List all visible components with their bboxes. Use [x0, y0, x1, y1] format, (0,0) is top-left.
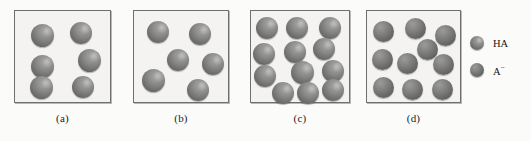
legend-item-a-minus: A−: [470, 63, 505, 77]
sphere-ha: [284, 41, 306, 63]
sphere-ha: [253, 43, 275, 65]
particulate-diagram-figure: (a)(b)(c)(d) HAA−: [0, 0, 531, 141]
sphere-ha: [78, 49, 101, 72]
legend-label-ha-text: HA: [493, 38, 508, 49]
sphere-a-minus: [432, 79, 453, 100]
panel-d: (d): [366, 10, 461, 103]
sphere-ha: [291, 61, 314, 84]
legend-label-a-minus-text: A: [493, 66, 501, 77]
sphere-a-minus: [397, 53, 418, 74]
panel-a-box: [14, 10, 111, 103]
panel-c-caption: (c): [250, 112, 350, 124]
panel-a: (a): [14, 10, 111, 103]
sphere-ha: [286, 17, 308, 39]
panel-b-box: [133, 10, 229, 103]
sphere-ha: [31, 55, 54, 78]
panel-b-caption: (b): [133, 112, 229, 124]
sphere-ha: [189, 23, 211, 45]
sphere-a-minus: [433, 54, 454, 75]
panel-c-box: [250, 10, 350, 103]
sphere-ha: [319, 17, 341, 39]
panel-c: (c): [250, 10, 350, 103]
legend-swatch-ha-icon: [470, 36, 484, 50]
legend-label-a-minus: A−: [493, 63, 505, 77]
sphere-ha: [142, 69, 165, 92]
sphere-ha: [313, 38, 335, 60]
sphere-a-minus: [373, 21, 394, 42]
sphere-a-minus: [373, 77, 394, 98]
legend-label-ha: HA: [493, 38, 508, 49]
sphere-ha: [70, 22, 92, 44]
sphere-a-minus: [405, 18, 426, 39]
sphere-ha: [167, 49, 189, 71]
panel-d-box: [366, 10, 461, 103]
sphere-ha: [272, 82, 294, 104]
sphere-ha: [72, 76, 94, 98]
legend-item-ha: HA: [470, 36, 508, 50]
legend-label-a-minus-superscript: −: [501, 63, 505, 72]
sphere-ha: [187, 79, 209, 101]
sphere-ha: [322, 79, 344, 101]
sphere-ha: [256, 17, 278, 39]
sphere-ha: [254, 65, 276, 87]
sphere-ha: [30, 76, 53, 99]
sphere-a-minus: [435, 25, 456, 46]
panel-d-caption: (d): [366, 112, 461, 124]
sphere-ha: [202, 53, 224, 75]
sphere-ha: [297, 82, 319, 104]
panel-b: (b): [133, 10, 229, 103]
sphere-a-minus: [402, 79, 423, 100]
legend-swatch-a-minus-icon: [470, 63, 484, 77]
sphere-a-minus: [372, 49, 393, 70]
sphere-ha: [31, 24, 54, 47]
sphere-ha: [147, 21, 169, 43]
panel-a-caption: (a): [14, 112, 111, 124]
